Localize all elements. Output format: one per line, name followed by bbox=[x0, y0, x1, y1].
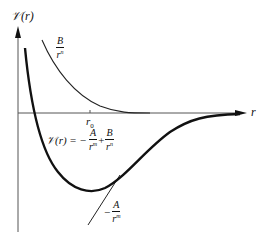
total-potential-curve bbox=[25, 48, 240, 191]
equation-term2-exponent: n bbox=[110, 141, 113, 147]
attractive-term-label: − A rm bbox=[104, 200, 120, 224]
repulsive-term-label: B rn bbox=[56, 36, 64, 60]
equation-plus: + bbox=[98, 135, 104, 146]
y-axis-arrow-icon bbox=[15, 26, 21, 38]
attractive-sign: − bbox=[104, 207, 110, 218]
attractive-numerator: A bbox=[112, 200, 120, 212]
equation-term2-numerator: B bbox=[105, 128, 113, 140]
total-equation-label: 𝒱(r) = − A rm + B rn bbox=[46, 128, 114, 152]
diagram-canvas bbox=[0, 0, 269, 238]
x-axis-label: r bbox=[251, 106, 256, 118]
equation-lhs: 𝒱(r) = − bbox=[46, 135, 87, 146]
attractive-exponent: m bbox=[116, 213, 120, 219]
repulsive-exponent: n bbox=[61, 49, 64, 55]
repulsive-numerator: B bbox=[56, 36, 64, 48]
equation-term1-exponent: m bbox=[93, 141, 97, 147]
y-axis-label: 𝒱(r) bbox=[11, 10, 34, 22]
equation-term1-numerator: A bbox=[89, 128, 97, 140]
